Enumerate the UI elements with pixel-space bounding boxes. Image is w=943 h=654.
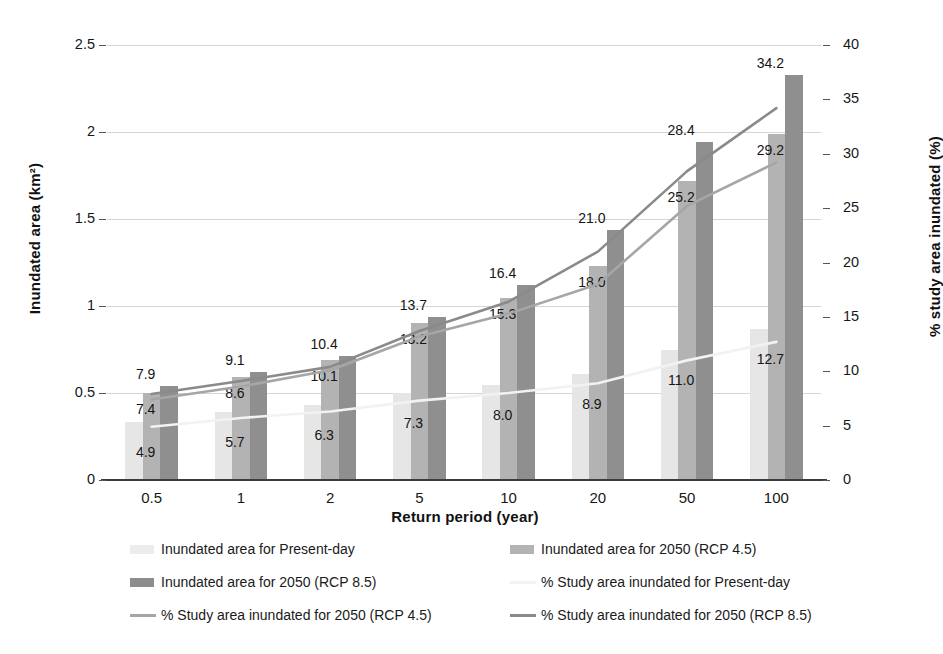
y-axis-right-tick-label: 30 bbox=[843, 145, 895, 161]
data-label: 13.7 bbox=[390, 297, 436, 313]
y-axis-right-tickmark bbox=[823, 263, 830, 264]
x-axis-tick-label: 0.5 bbox=[122, 489, 182, 506]
y-axis-right-tick-label: 40 bbox=[843, 36, 895, 52]
data-label: 11.0 bbox=[658, 372, 704, 388]
gridline bbox=[107, 45, 821, 46]
y-axis-left-tick-label: 1 bbox=[43, 297, 95, 313]
y-axis-left-tickmark bbox=[99, 132, 106, 133]
legend-line-icon bbox=[130, 614, 156, 617]
data-label: 7.9 bbox=[123, 366, 169, 382]
gridline bbox=[107, 306, 821, 307]
y-axis-right-tick-label: 5 bbox=[843, 417, 895, 433]
legend-swatch-icon bbox=[510, 545, 534, 554]
bar bbox=[607, 230, 625, 480]
gridline bbox=[107, 219, 821, 220]
data-label: 29.2 bbox=[747, 142, 793, 158]
data-label: 21.0 bbox=[569, 210, 615, 226]
y-axis-right-tickmark bbox=[823, 45, 830, 46]
legend-label: % Study area inundated for 2050 (RCP 4.5… bbox=[161, 607, 432, 623]
legend-item[interactable]: Inundated area for 2050 (RCP 4.5) bbox=[510, 536, 756, 562]
bar bbox=[768, 134, 786, 480]
x-axis-tick-label: 2 bbox=[300, 489, 360, 506]
data-label: 10.4 bbox=[301, 336, 347, 352]
y-axis-right-tick-label: 0 bbox=[843, 471, 895, 487]
chart-legend: Inundated area for Present-dayInundated … bbox=[112, 536, 872, 636]
bar bbox=[785, 75, 803, 480]
plot-area: 4.95.76.37.38.08.911.012.77.48.610.113.2… bbox=[107, 45, 821, 480]
y-axis-right-tickmark bbox=[823, 480, 830, 481]
legend-item[interactable]: % Study area inundated for Present-day bbox=[510, 569, 790, 595]
y-axis-right-tickmark bbox=[823, 99, 830, 100]
y-axis-right-tick-label: 20 bbox=[843, 254, 895, 270]
x-axis-tick-label: 10 bbox=[479, 489, 539, 506]
y-axis-left-title: Inundated area (km²) bbox=[26, 109, 43, 369]
legend-label: Inundated area for 2050 (RCP 8.5) bbox=[161, 574, 376, 590]
x-axis-tick-label: 100 bbox=[746, 489, 806, 506]
data-label: 8.6 bbox=[212, 385, 258, 401]
data-label: 28.4 bbox=[658, 122, 704, 138]
bar bbox=[572, 374, 590, 480]
data-label: 4.9 bbox=[123, 444, 169, 460]
legend-label: % Study area inundated for Present-day bbox=[541, 574, 790, 590]
legend-label: % Study area inundated for 2050 (RCP 8.5… bbox=[541, 607, 812, 623]
data-label: 7.4 bbox=[123, 401, 169, 417]
bar bbox=[393, 393, 411, 480]
bar bbox=[482, 385, 500, 480]
y-axis-right-tick-label: 35 bbox=[843, 90, 895, 106]
data-label: 10.1 bbox=[301, 368, 347, 384]
data-label: 9.1 bbox=[212, 352, 258, 368]
data-label: 8.0 bbox=[480, 407, 526, 423]
data-label: 7.3 bbox=[390, 415, 436, 431]
data-label: 25.2 bbox=[658, 189, 704, 205]
x-axis-tick-label: 1 bbox=[211, 489, 271, 506]
data-label: 34.2 bbox=[747, 55, 793, 71]
data-label: 16.4 bbox=[480, 265, 526, 281]
bar bbox=[678, 181, 696, 480]
y-axis-right-title: % study area inundated (%) bbox=[926, 87, 943, 387]
legend-line-icon bbox=[510, 614, 536, 617]
data-label: 6.3 bbox=[301, 427, 347, 443]
data-label: 18.0 bbox=[569, 274, 615, 290]
legend-item[interactable]: % Study area inundated for 2050 (RCP 8.5… bbox=[510, 602, 812, 628]
y-axis-left-tick-label: 1.5 bbox=[43, 210, 95, 226]
data-label: 15.3 bbox=[480, 306, 526, 322]
legend-item[interactable]: Inundated area for Present-day bbox=[130, 536, 355, 562]
x-axis-title: Return period (year) bbox=[0, 508, 930, 525]
x-axis-tick-label: 50 bbox=[657, 489, 717, 506]
data-label: 8.9 bbox=[569, 396, 615, 412]
legend-item[interactable]: Inundated area for 2050 (RCP 8.5) bbox=[130, 569, 376, 595]
y-axis-left-tick-label: 2.5 bbox=[43, 36, 95, 52]
y-axis-left-tick-label: 2 bbox=[43, 123, 95, 139]
y-axis-left-tick-label: 0 bbox=[43, 471, 95, 487]
legend-line-icon bbox=[510, 581, 536, 584]
legend-swatch-icon bbox=[130, 578, 154, 587]
y-axis-right-tick-label: 15 bbox=[843, 308, 895, 324]
y-axis-right-tickmark bbox=[823, 371, 830, 372]
x-axis-line bbox=[101, 479, 827, 481]
bar bbox=[500, 298, 518, 480]
y-axis-left-tickmark bbox=[99, 393, 106, 394]
y-axis-left-tickmark bbox=[99, 306, 106, 307]
x-axis-tick-label: 20 bbox=[568, 489, 628, 506]
data-label: 12.7 bbox=[747, 351, 793, 367]
y-axis-right-tickmark bbox=[823, 154, 830, 155]
y-axis-left-tickmark bbox=[99, 480, 106, 481]
data-label: 13.2 bbox=[390, 331, 436, 347]
gridline bbox=[107, 132, 821, 133]
legend-item[interactable]: % Study area inundated for 2050 (RCP 4.5… bbox=[130, 602, 432, 628]
legend-label: Inundated area for 2050 (RCP 4.5) bbox=[541, 541, 756, 557]
y-axis-right-tick-label: 10 bbox=[843, 362, 895, 378]
y-axis-left-tickmark bbox=[99, 219, 106, 220]
data-label: 5.7 bbox=[212, 434, 258, 450]
y-axis-left-tick-label: 0.5 bbox=[43, 384, 95, 400]
y-axis-right-tick-label: 25 bbox=[843, 199, 895, 215]
y-axis-right-tickmark bbox=[823, 426, 830, 427]
bar bbox=[589, 266, 607, 480]
legend-label: Inundated area for Present-day bbox=[161, 541, 355, 557]
bar bbox=[661, 350, 679, 481]
y-axis-right-tickmark bbox=[823, 317, 830, 318]
x-axis-tick-label: 5 bbox=[389, 489, 449, 506]
y-axis-right-tickmark bbox=[823, 208, 830, 209]
legend-swatch-icon bbox=[130, 545, 154, 554]
